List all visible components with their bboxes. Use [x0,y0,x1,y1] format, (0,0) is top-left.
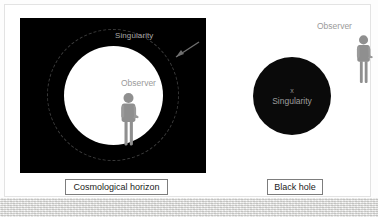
figure-card: Singularity Observer x Singularity Obser… [4,4,371,197]
page-texture-band [0,198,378,217]
figure-root: Singularity Observer x Singularity Obser… [0,0,378,217]
observer-person-icon [118,92,140,146]
observable-region-circle [64,46,163,145]
cosmological-horizon-panel: Singularity Observer [20,18,206,173]
black-hole-singularity-label: Singularity [253,96,331,106]
observer-label: Observer [121,78,156,88]
observer-label-right: Observer [317,21,352,31]
caption-black-hole: Black hole [267,179,323,195]
singularity-label: Singularity [115,31,153,40]
observer-person-icon-right [354,33,374,85]
singularity-center-marker: x [253,87,331,94]
caption-cosmological-horizon: Cosmological horizon [65,179,168,195]
singularity-pointer-arrow [168,40,202,62]
